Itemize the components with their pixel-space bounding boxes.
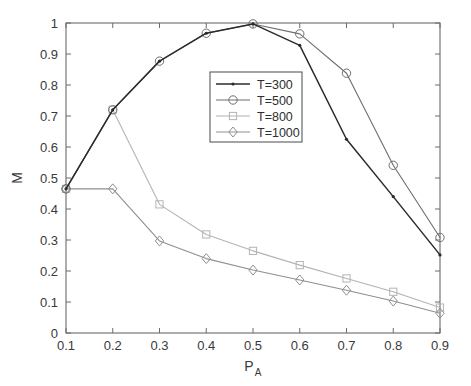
x-tick-label: 0.5 bbox=[244, 338, 262, 353]
x-tick-label: 0.8 bbox=[384, 338, 402, 353]
y-tick-label: 0.5 bbox=[40, 171, 58, 186]
legend-label: T=300 bbox=[257, 78, 293, 92]
data-series-layer bbox=[62, 20, 444, 318]
line-chart: 0.10.20.30.40.50.60.70.80.900.10.20.30.4… bbox=[0, 0, 471, 386]
x-axis-title: P bbox=[244, 358, 253, 374]
data-point-marker bbox=[392, 195, 395, 198]
y-tick-label: 0.3 bbox=[40, 233, 58, 248]
data-point-marker bbox=[64, 187, 67, 190]
y-tick-label: 0 bbox=[51, 326, 58, 341]
data-point-marker bbox=[158, 60, 161, 63]
data-point-marker bbox=[251, 22, 254, 25]
x-tick-label: 0.4 bbox=[197, 338, 215, 353]
plot-frame bbox=[66, 23, 440, 333]
data-point-marker bbox=[205, 32, 208, 35]
y-tick-label: 0.2 bbox=[40, 264, 58, 279]
figure-canvas: 0.10.20.30.40.50.60.70.80.900.10.20.30.4… bbox=[0, 0, 471, 386]
y-tick-label: 0.6 bbox=[40, 140, 58, 155]
data-point-marker bbox=[438, 253, 441, 256]
y-tick-label: 0.4 bbox=[40, 202, 58, 217]
y-tick-label: 0.1 bbox=[40, 295, 58, 310]
x-tick-label: 0.9 bbox=[431, 338, 449, 353]
y-tick-label: 0.8 bbox=[40, 78, 58, 93]
y-tick-label: 0.9 bbox=[40, 47, 58, 62]
y-tick-label: 1 bbox=[51, 16, 58, 31]
legend-label: T=1000 bbox=[257, 126, 300, 140]
x-tick-label: 0.1 bbox=[57, 338, 75, 353]
x-tick-label: 0.7 bbox=[337, 338, 355, 353]
legend-label: T=500 bbox=[257, 94, 293, 108]
axes: 0.10.20.30.40.50.60.70.80.900.10.20.30.4… bbox=[40, 16, 449, 354]
chart-legend: T=300T=500T=800T=1000 bbox=[210, 72, 302, 142]
y-axis-title: M bbox=[9, 172, 25, 184]
data-point-marker bbox=[231, 82, 234, 85]
data-point-marker bbox=[111, 108, 114, 111]
y-tick-label: 0.7 bbox=[40, 109, 58, 124]
data-point-marker bbox=[345, 138, 348, 141]
data-point-marker bbox=[298, 44, 301, 47]
x-tick-label: 0.6 bbox=[291, 338, 309, 353]
x-axis-title-subscript: A bbox=[255, 367, 262, 378]
x-tick-label: 0.3 bbox=[150, 338, 168, 353]
x-tick-label: 0.2 bbox=[104, 338, 122, 353]
legend-label: T=800 bbox=[257, 110, 293, 124]
